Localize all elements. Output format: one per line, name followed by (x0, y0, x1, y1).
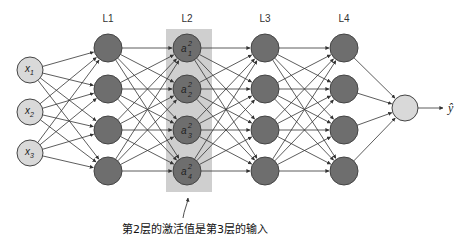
hidden-node-L3-3 (251, 116, 279, 144)
output-label-yhat: ŷ (447, 101, 454, 115)
hidden-node-L2-3: a23 (173, 116, 201, 144)
svg-text:1: 1 (188, 50, 192, 57)
hidden-node-L4-4 (330, 157, 358, 185)
hidden-node-L2-2: a22 (173, 75, 201, 103)
input-node-x2: x2 (17, 99, 43, 125)
hidden-node-L3-1 (251, 34, 279, 62)
edge (277, 54, 330, 82)
edge (43, 73, 94, 85)
hidden-node-L1-2 (94, 75, 122, 103)
hidden-node-L4-2 (330, 75, 358, 103)
svg-text:a: a (181, 166, 187, 177)
hidden-node-L3-2 (251, 75, 279, 103)
edge (273, 61, 336, 160)
svg-text:2: 2 (187, 91, 192, 98)
caption-text: 第2层的激活值是第3层的输入 (122, 220, 268, 236)
annotation-arrow (183, 198, 188, 218)
edge (43, 115, 94, 127)
hidden-node-L1-4 (94, 157, 122, 185)
edge (40, 99, 96, 145)
neural-network-diagram: x1x2x3a21a22a23a24 ŷL1L2L3L4 第2层的激活值是第3层… (0, 0, 465, 237)
edge (40, 120, 96, 162)
svg-text:2: 2 (187, 40, 192, 47)
edge (43, 52, 94, 66)
edge (120, 54, 173, 82)
svg-text:2: 2 (187, 81, 192, 88)
layer-label-L4: L4 (338, 13, 350, 24)
input-node-x1: x1 (17, 57, 43, 83)
hidden-node-L1-3 (94, 116, 122, 144)
svg-text:3: 3 (188, 132, 192, 139)
edge (354, 58, 395, 98)
edge (357, 93, 391, 104)
layer-label-L2: L2 (181, 13, 193, 24)
connection-edges (38, 48, 443, 171)
svg-text:2: 2 (187, 163, 192, 170)
hidden-node-L4-3 (330, 116, 358, 144)
edge (120, 137, 173, 165)
edge (277, 137, 330, 165)
hidden-node-L1-1 (94, 34, 122, 62)
edge (43, 156, 94, 168)
layer-label-L3: L3 (259, 13, 271, 24)
hidden-node-L2-4: a24 (173, 157, 201, 185)
svg-text:a: a (181, 43, 187, 54)
network-graph: x1x2x3a21a22a23a24 ŷL1L2L3L4 (0, 0, 465, 237)
input-node-x3: x3 (17, 140, 43, 166)
hidden-node-L4-1 (330, 34, 358, 62)
edge (38, 60, 99, 143)
hidden-node-L2-1: a21 (173, 34, 201, 62)
svg-text:4: 4 (188, 173, 192, 180)
svg-text:2: 2 (187, 122, 192, 129)
svg-text:a: a (181, 84, 187, 95)
edge (38, 80, 99, 159)
edge (357, 113, 392, 126)
layer-label-L1: L1 (102, 13, 114, 24)
hidden-node-L3-4 (251, 157, 279, 185)
svg-text:a: a (181, 125, 187, 136)
output-node (392, 95, 418, 121)
